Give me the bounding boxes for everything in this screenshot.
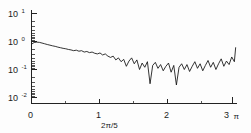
y-axis-major-ticks	[32, 14, 38, 98]
annotation-label: 2π/5	[101, 121, 118, 130]
y-tick-label-10e1-exponent: 1	[22, 8, 26, 14]
y-tick-label-10e-2: 10	[8, 93, 18, 103]
y-tick-label-10e0-exponent: 0	[22, 36, 26, 42]
x-tick-label-0: 0	[28, 110, 33, 120]
x-axis-ticks	[32, 97, 233, 104]
y-tick-label-10e-2-exponent: -2	[22, 92, 28, 98]
x-tick-label-3: 3	[224, 110, 229, 120]
y-tick-label-10e1: 10	[8, 9, 18, 19]
chart-plot-area: 10 1 10 0 10 -1 10 -2	[0, 0, 251, 133]
y-tick-label-10e-1: 10	[8, 65, 18, 75]
chart-figure: 10 1 10 0 10 -1 10 -2	[0, 0, 251, 133]
y-tick-label-10e-1-exponent: -1	[22, 64, 28, 70]
x-axis-tick-labels: 0 1 2 3 π	[28, 110, 240, 121]
x-axis-unit-pi-label: π	[234, 112, 240, 121]
y-axis-tick-labels: 10 1 10 0 10 -1 10 -2	[8, 8, 27, 104]
data-series-spectrum	[32, 42, 236, 85]
x-axis-annotation-2pi-over-5: 2π/5	[101, 121, 118, 130]
x-tick-label-1: 1	[96, 110, 101, 120]
x-tick-label-2: 2	[164, 110, 169, 120]
y-tick-label-10e0: 10	[8, 37, 18, 47]
